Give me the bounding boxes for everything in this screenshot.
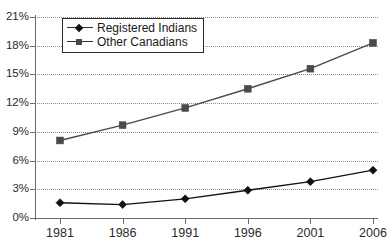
data-point-marker <box>181 195 189 203</box>
data-point-marker <box>119 201 127 209</box>
x-axis-tick-label: 1986 <box>93 226 153 240</box>
y-axis-tick <box>30 189 36 190</box>
chart-legend: Registered Indians Other Canadians <box>62 18 204 53</box>
legend-marker-square-icon <box>67 36 93 48</box>
y-axis-tick <box>30 132 36 133</box>
x-axis-tick-label: 1996 <box>218 226 278 240</box>
y-axis-tick <box>30 218 36 219</box>
data-point-marker <box>182 105 189 112</box>
legend-item-other-canadians: Other Canadians <box>67 35 197 49</box>
data-point-marker <box>369 166 377 174</box>
data-point-marker <box>370 39 377 46</box>
series-line-diamond <box>60 170 373 204</box>
data-point-marker <box>306 178 314 186</box>
y-axis-tick <box>30 46 36 47</box>
x-axis-tick <box>373 218 374 224</box>
legend-item-registered-indians: Registered Indians <box>67 21 197 35</box>
data-point-marker <box>57 137 64 144</box>
x-axis-tick <box>123 218 124 224</box>
x-axis-tick <box>60 218 61 224</box>
x-axis-tick <box>248 218 249 224</box>
x-axis-tick-label: 1981 <box>30 226 90 240</box>
y-axis-tick <box>30 74 36 75</box>
data-point-marker <box>119 122 126 129</box>
y-axis-tick <box>30 17 36 18</box>
data-point-marker <box>244 186 252 194</box>
legend-label-other-canadians: Other Canadians <box>97 36 188 49</box>
data-point-marker <box>307 65 314 72</box>
y-axis-tick <box>30 161 36 162</box>
legend-marker-diamond-icon <box>67 22 93 34</box>
data-point-marker <box>244 85 251 92</box>
x-axis-tick <box>185 218 186 224</box>
legend-label-registered-indians: Registered Indians <box>97 22 197 35</box>
x-axis-tick-label: 1991 <box>155 226 215 240</box>
x-axis-tick-label: 2001 <box>280 226 340 240</box>
x-axis-tick <box>310 218 311 224</box>
series-line-square <box>60 43 373 141</box>
x-axis-tick-label: 2006 <box>343 226 391 240</box>
y-axis-tick <box>30 103 36 104</box>
data-point-marker <box>56 199 64 207</box>
